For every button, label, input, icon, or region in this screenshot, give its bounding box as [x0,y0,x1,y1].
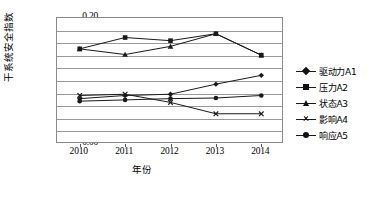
legend-label: 响应A5 [319,129,348,142]
data-point [213,81,218,86]
legend-item-triangle: 状态A3 [296,95,384,111]
x-axis-tick-label: 2011 [104,147,144,157]
plot-area [56,17,283,143]
x-axis-tick-label: 2010 [59,147,99,157]
legend-item-circle: 响应A5 [296,127,384,143]
legend: 驱动力A1压力A2状态A3影响A4响应A5 [296,63,384,143]
legend-marker-diamond-icon [296,66,316,76]
data-point [168,92,173,97]
data-point [259,93,264,98]
legend-marker-square-icon [296,82,316,92]
data-point [123,98,128,103]
series-layer [57,18,284,144]
y-axis-title: 干系统安全指数 [1,0,15,107]
data-point [214,96,219,101]
legend-label: 压力A2 [319,81,348,94]
data-point [259,73,264,78]
series-triangle [77,31,264,58]
x-axis-title: 年份 [0,162,283,176]
x-axis-tick-label: 2014 [240,147,280,157]
legend-item-cross: 影响A4 [296,111,384,127]
legend-label: 状态A3 [319,97,348,110]
data-point [168,96,173,101]
legend-marker-cross-icon [296,114,316,124]
legend-label: 影响A4 [319,113,348,126]
line-chart: 干系统安全指数 0.200.180.160.140.120.100.080.06… [0,0,385,197]
legend-label: 驱动力A1 [319,65,356,78]
x-axis-tick-label: 2012 [150,147,190,157]
data-point [123,35,128,40]
legend-item-diamond: 驱动力A1 [296,63,384,79]
data-point [168,38,173,43]
legend-marker-triangle-icon [296,98,316,108]
legend-item-square: 压力A2 [296,79,384,95]
x-axis-tick-label: 2013 [195,147,235,157]
legend-marker-circle-icon [296,130,316,140]
data-point [77,99,82,104]
